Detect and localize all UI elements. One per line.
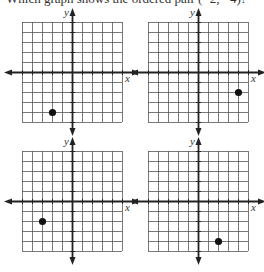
coordinate-plane: xy (126, 0, 258, 136)
arrow-down-icon (70, 257, 76, 265)
graph-option-a[interactable]: xy (0, 0, 132, 136)
arrow-right-icon (258, 70, 264, 76)
y-axis (70, 137, 76, 265)
y-axis-label: y (63, 6, 69, 18)
arrow-left-icon (4, 70, 12, 76)
graph-option-b[interactable]: xy (126, 0, 258, 136)
y-axis-label: y (63, 135, 69, 147)
arrow-up-icon (196, 137, 202, 145)
y-axis (70, 8, 76, 136)
coordinate-plane: xy (0, 129, 132, 265)
arrow-left-icon (4, 199, 12, 205)
arrow-right-icon (258, 199, 264, 205)
arrow-down-icon (196, 257, 202, 265)
y-axis (196, 137, 202, 265)
plotted-point (235, 89, 242, 96)
plotted-point (39, 218, 46, 225)
coordinate-plane: xy (126, 129, 258, 265)
plotted-point (215, 238, 222, 245)
arrow-left-icon (130, 70, 138, 76)
x-axis-label: x (250, 72, 256, 84)
arrow-left-icon (130, 199, 138, 205)
plotted-point (49, 109, 56, 116)
coordinate-plane: xy (0, 0, 132, 136)
arrow-up-icon (196, 8, 202, 16)
y-axis-label: y (189, 135, 195, 147)
x-axis-label: x (250, 201, 256, 213)
y-axis (196, 8, 202, 136)
arrow-up-icon (70, 8, 76, 16)
arrow-up-icon (70, 137, 76, 145)
y-axis-label: y (189, 6, 195, 18)
graph-option-d[interactable]: xy (126, 129, 258, 265)
graph-option-c[interactable]: xy (0, 129, 132, 265)
